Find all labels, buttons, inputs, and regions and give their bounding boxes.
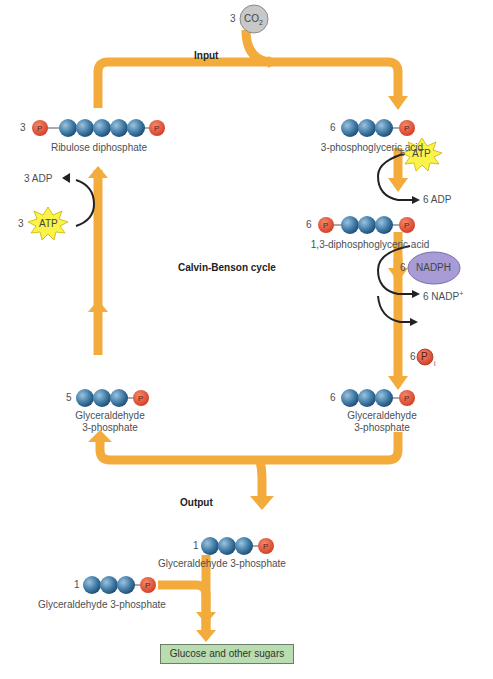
nadp-text: 6 NADP: [423, 291, 459, 302]
phosphate-label: P: [145, 580, 150, 592]
atp-left-count: 3: [18, 218, 24, 229]
phosphate-label: P: [404, 123, 409, 135]
nadp-superscript: +: [459, 290, 463, 297]
g3p-left-count: 5: [66, 392, 72, 403]
phosphate-label: P: [37, 123, 42, 135]
phosphate-label: P: [404, 220, 409, 232]
nadph-count: 6: [400, 262, 406, 273]
g3p-left-name-2: 3-phosphate: [60, 422, 160, 434]
g3p-extra-count: 1: [74, 579, 80, 590]
g3p-left-name-1: Glyceraldehyde: [60, 410, 160, 422]
phosphate-label: P: [404, 393, 409, 405]
phosphate-label: P: [138, 393, 143, 405]
g3p-right-count: 6: [330, 392, 336, 403]
adp-right-label: 6 ADP: [423, 194, 451, 206]
adp-left-label: 3 ADP: [24, 173, 52, 185]
diagram-title: Calvin-Benson cycle: [178, 262, 276, 274]
co2-subscript: 2: [259, 19, 263, 26]
co2-label: CO2: [244, 13, 263, 29]
atp-right-label: ATP: [412, 148, 431, 160]
pi-subscript: i: [434, 358, 436, 370]
phosphate-label: P: [154, 123, 159, 135]
nadp-label: 6 NADP+: [423, 288, 463, 303]
g3p-extra-name: Glyceraldehyde 3-phosphate: [38, 599, 166, 611]
co2-formula: CO: [244, 13, 259, 24]
g3p-right-name-2: 3-phosphate: [332, 422, 432, 434]
phosphate-label: P: [323, 220, 328, 232]
dpga-name: 1,3-diphosphoglyceric acid: [300, 239, 440, 251]
atp-right-count: 6: [400, 148, 405, 158]
pi-label: P: [421, 351, 428, 363]
g3p-output-count: 1: [193, 540, 199, 551]
pga-count: 6: [330, 122, 336, 133]
nadph-label: NADPH: [416, 262, 451, 274]
g3p-output-name: Glyceraldehyde 3-phosphate: [158, 558, 286, 570]
ribulose-count: 3: [20, 122, 26, 133]
pi-count: 6: [410, 351, 416, 362]
atp-left-label: ATP: [39, 218, 58, 230]
cycle-arrows: [0, 0, 493, 679]
ribulose-name: Ribulose diphosphate: [44, 142, 154, 154]
co2-count: 3: [230, 13, 236, 24]
phosphate-label: P: [263, 541, 268, 553]
output-label: Output: [180, 497, 213, 509]
ribulose-chain: [32, 119, 165, 137]
product-box: Glucose and other sugars: [160, 644, 294, 664]
input-label: Input: [194, 50, 218, 62]
g3p-right-name-1: Glyceraldehyde: [332, 410, 432, 422]
dpga-chain: [318, 216, 415, 234]
dpga-count: 6: [306, 219, 312, 230]
